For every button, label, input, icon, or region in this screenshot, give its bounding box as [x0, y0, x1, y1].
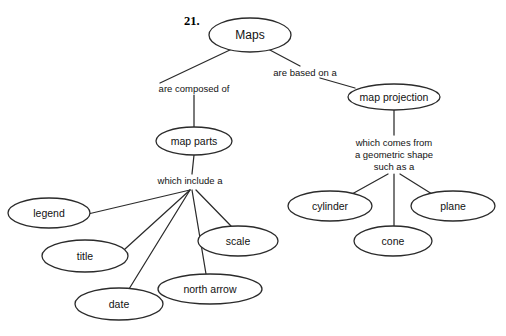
node-map-projection[interactable]: map projection: [348, 84, 440, 110]
node-label-north-arrow: north arrow: [183, 283, 237, 295]
node-label-date: date: [109, 298, 130, 310]
node-label-plane: plane: [440, 200, 466, 212]
node-scale[interactable]: scale: [198, 226, 278, 256]
node-map-parts[interactable]: map parts: [156, 127, 232, 155]
node-label-scale: scale: [226, 235, 251, 247]
edge-map-parts-to-include: [192, 155, 194, 174]
node-label-title: title: [77, 250, 94, 262]
node-label-legend: legend: [33, 207, 65, 219]
link-label-are-composed-of: are composed of: [159, 83, 230, 94]
node-label-map-parts: map parts: [171, 135, 218, 147]
edge-include-to-date: [129, 190, 190, 289]
node-label-cylinder: cylinder: [312, 200, 349, 212]
node-plane[interactable]: plane: [411, 191, 495, 221]
edge-include-to-title: [125, 190, 190, 249]
question-number-label: 21.: [184, 14, 200, 28]
link-label-which-include-a: which include a: [157, 175, 224, 186]
link-label-a-geometric-shape: a geometric shape: [355, 149, 433, 160]
concept-map-diagram: are composed of are based on a which inc…: [0, 0, 506, 336]
edge-maps-to-based-on-a: [268, 49, 300, 66]
node-legend[interactable]: legend: [8, 198, 90, 228]
edge-maps-to-composed-of: [160, 49, 232, 83]
link-label-such-as-a: such as a: [374, 161, 415, 172]
link-label-which-comes-from: which comes from: [355, 137, 433, 148]
link-label-are-based-on-a: are based on a: [273, 67, 337, 78]
node-date[interactable]: date: [75, 288, 163, 320]
node-label-cone: cone: [382, 235, 405, 247]
edge-include-to-legend: [88, 190, 190, 214]
edge-include-to-north-arrow: [192, 190, 206, 274]
edge-based-on-a-to-projection: [320, 78, 355, 88]
node-cylinder[interactable]: cylinder: [288, 191, 372, 221]
node-maps[interactable]: Maps: [209, 18, 291, 52]
node-label-maps: Maps: [235, 28, 264, 42]
edge-include-to-scale: [196, 190, 231, 226]
node-cone[interactable]: cone: [354, 226, 432, 256]
node-north-arrow[interactable]: north arrow: [158, 274, 262, 304]
node-title[interactable]: title: [42, 240, 128, 272]
node-label-map-projection: map projection: [360, 91, 429, 103]
edge-shape-to-plane: [400, 174, 432, 194]
edge-shape-to-cylinder: [352, 174, 388, 194]
